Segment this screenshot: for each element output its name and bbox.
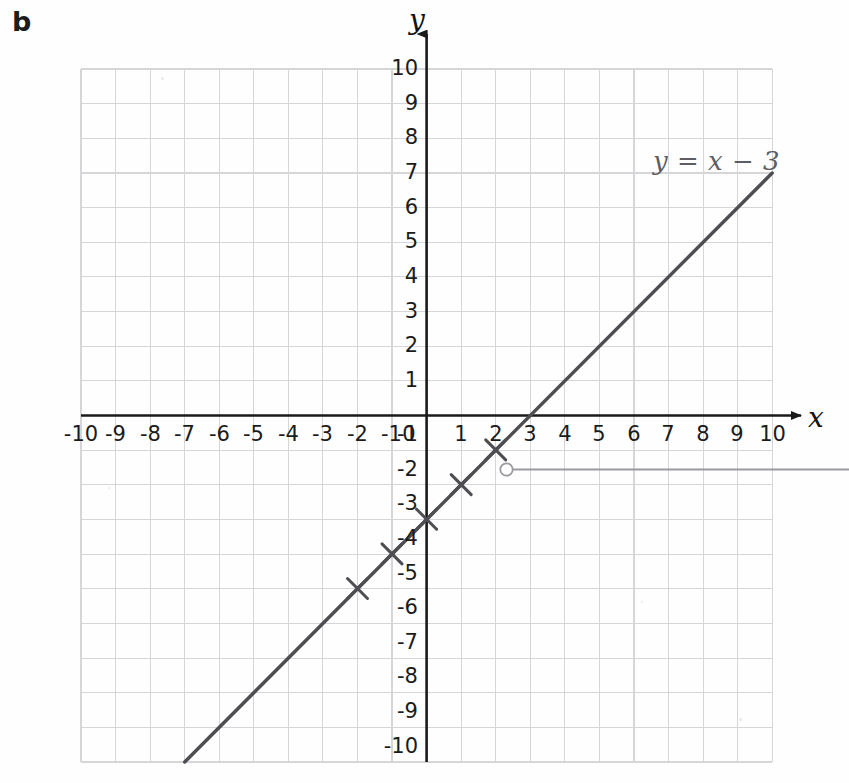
y-tick-label: -10	[340, 736, 418, 757]
equation-annotation-label: y = x − 3	[653, 146, 780, 176]
y-tick-label: -5	[348, 563, 418, 584]
x-tick-label: 10	[750, 424, 795, 445]
y-tick-label: -8	[348, 666, 418, 687]
y-tick-label: 2	[358, 335, 418, 356]
y-tick-label: 10	[358, 58, 418, 79]
y-tick-label: 7	[358, 162, 418, 183]
y-tick-label: 9	[358, 93, 418, 114]
x-tick-label: 1	[450, 424, 472, 445]
y-tick-label: -6	[348, 597, 418, 618]
graph-figure: b	[0, 0, 849, 783]
x-tick-label: 3	[519, 424, 541, 445]
x-tick-label: 5	[588, 424, 610, 445]
y-tick-label: 6	[358, 197, 418, 218]
axis-lines	[81, 34, 801, 762]
x-tick-label: 4	[554, 424, 576, 445]
y-axis-letter-label: y	[409, 6, 425, 34]
callout-circle-marker	[500, 463, 512, 475]
y-tick-label: 3	[358, 301, 418, 322]
y-tick-label: 4	[358, 266, 418, 287]
coordinate-plane	[0, 0, 849, 783]
x-tick-label: 8	[692, 424, 714, 445]
plot-line-y-equals-x-minus-3	[185, 173, 773, 762]
x-axis-letter-label: x	[808, 404, 824, 432]
y-tick-label: 5	[358, 231, 418, 252]
y-tick-label: -3	[348, 493, 418, 514]
x-tick-label: 6	[623, 424, 645, 445]
x-tick-label: 7	[657, 424, 679, 445]
y-tick-label: 8	[358, 127, 418, 148]
y-tick-label: -9	[348, 701, 418, 722]
y-tick-label: -1	[348, 424, 418, 445]
x-tick-label: 2	[485, 424, 507, 445]
callout-annotation	[500, 463, 849, 475]
y-tick-label: -2	[348, 459, 418, 480]
y-tick-label: 1	[358, 370, 418, 391]
y-tick-label: -7	[348, 632, 418, 653]
x-tick-label: 9	[726, 424, 748, 445]
y-tick-label: -4	[348, 528, 418, 549]
